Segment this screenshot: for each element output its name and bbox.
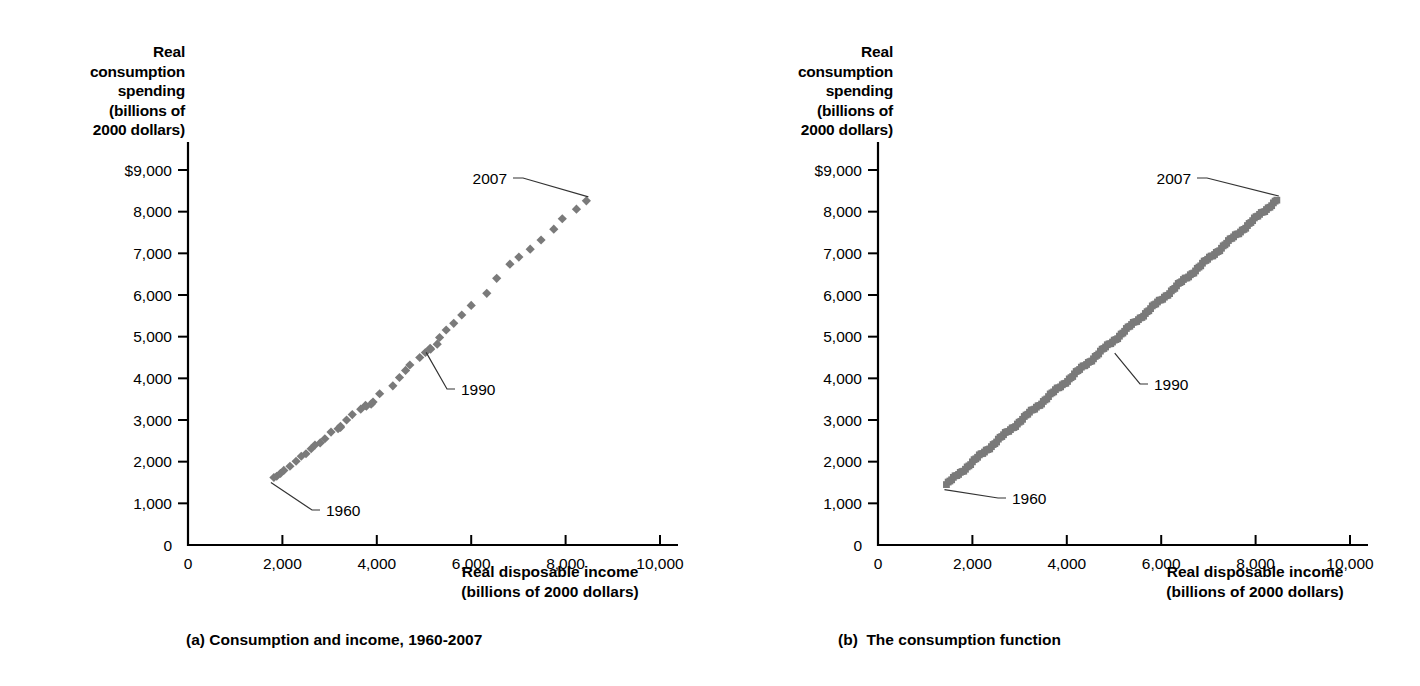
data-point — [526, 245, 535, 254]
data-point — [549, 225, 558, 234]
data-point-group — [269, 196, 591, 482]
x-tick-label: 4,000 — [1047, 555, 1086, 572]
x-tick-label: 2,000 — [953, 555, 992, 572]
x-tick-label: 0 — [874, 555, 883, 572]
data-point — [558, 214, 567, 223]
data-point-group — [943, 197, 1280, 488]
y-tick-label: 7,000 — [823, 245, 862, 262]
data-point — [442, 325, 451, 334]
y-tick-label: $9,000 — [815, 162, 863, 179]
data-point — [375, 389, 384, 398]
y-tick-label: 0 — [163, 537, 172, 554]
y-tick-label: 1,000 — [133, 495, 172, 512]
panel-b-caption: (b) The consumption function — [838, 631, 1061, 649]
y-tick-label: 6,000 — [133, 287, 172, 304]
data-point — [582, 196, 591, 205]
annotation-label: 1990 — [1154, 376, 1189, 393]
annotation-1990: 1990 — [426, 352, 496, 397]
annotation-label: 2007 — [1157, 170, 1191, 187]
annotation-label: 1960 — [1012, 490, 1047, 507]
annotation-1990: 1990 — [1115, 353, 1189, 392]
data-point — [449, 319, 458, 328]
annotation-label: 1960 — [326, 502, 361, 519]
annotation-2007: 2007 — [1157, 170, 1279, 197]
panel-a-caption: (a) Consumption and income, 1960-2007 — [186, 631, 482, 649]
data-point — [388, 381, 397, 390]
data-point — [395, 373, 404, 382]
annotation-2007: 2007 — [473, 170, 589, 197]
data-point — [536, 235, 545, 244]
data-point — [467, 301, 476, 310]
y-tick-label: 6,000 — [823, 287, 862, 304]
y-tick-label: 5,000 — [133, 328, 172, 345]
data-point — [505, 260, 514, 269]
panel-b: Real consumption spending (billions of 2… — [710, 0, 1420, 686]
data-point — [457, 310, 466, 319]
annotation-1960: 1960 — [271, 483, 361, 519]
x-tick-label: 0 — [184, 555, 193, 572]
y-tick-label: $9,000 — [125, 162, 173, 179]
data-point — [1273, 197, 1280, 204]
data-point — [482, 289, 491, 298]
data-point — [492, 274, 501, 283]
figure-consumption-function: Real consumption spending (billions of 2… — [0, 0, 1420, 686]
y-tick-label: 1,000 — [823, 495, 862, 512]
x-tick-label: 4,000 — [357, 555, 396, 572]
y-tick-label: 2,000 — [133, 453, 172, 470]
panel-a: Real consumption spending (billions of 2… — [0, 0, 710, 686]
y-tick-label: 8,000 — [133, 203, 172, 220]
annotation-label: 1990 — [461, 381, 496, 398]
annotation-1960: 1960 — [944, 490, 1046, 507]
data-point — [348, 410, 357, 419]
y-tick-label: 0 — [853, 537, 862, 554]
y-tick-label: 3,000 — [823, 412, 862, 429]
y-tick-label: 7,000 — [133, 245, 172, 262]
panel-b-x-axis-title: Real disposable income (billions of 2000… — [1100, 562, 1410, 601]
data-point — [572, 205, 581, 214]
y-tick-label: 2,000 — [823, 453, 862, 470]
panel-a-x-axis-title: Real disposable income (billions of 2000… — [395, 562, 705, 601]
x-tick-label: 2,000 — [263, 555, 302, 572]
annotation-label: 2007 — [473, 170, 507, 187]
y-tick-label: 4,000 — [823, 370, 862, 387]
data-point — [514, 252, 523, 261]
y-tick-label: 8,000 — [823, 203, 862, 220]
y-tick-label: 5,000 — [823, 328, 862, 345]
data-point — [342, 415, 351, 424]
y-tick-label: 4,000 — [133, 370, 172, 387]
y-tick-label: 3,000 — [133, 412, 172, 429]
